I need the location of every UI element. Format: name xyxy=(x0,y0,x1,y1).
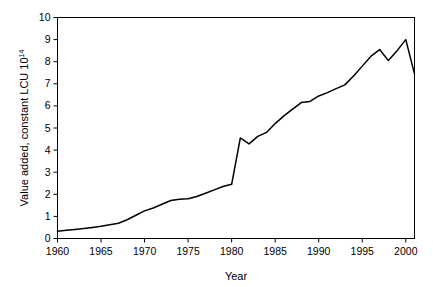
x-tick-label: 2000 xyxy=(394,245,418,257)
y-axis-title-group: Value added, constant LCU 1014 xyxy=(18,49,30,206)
y-tick-label: 8 xyxy=(45,55,51,67)
x-tick-label: 1995 xyxy=(351,245,375,257)
x-tick-label: 1970 xyxy=(133,245,157,257)
x-axis-tick-labels: 196019651970197519801985199019952000 xyxy=(46,245,418,257)
x-axis-title: Year xyxy=(225,270,248,282)
y-axis-title-text: Value added, constant LCU 10 xyxy=(18,57,30,206)
y-tick-label: 1 xyxy=(45,210,51,222)
y-tick-label: 6 xyxy=(45,99,51,111)
x-tick-label: 1980 xyxy=(220,245,244,257)
y-tick-label: 10 xyxy=(39,11,51,23)
y-tick-label: 2 xyxy=(45,188,51,200)
x-tick-label: 1975 xyxy=(176,245,200,257)
x-tick-label: 1960 xyxy=(46,245,70,257)
chart-figure: 012345678910 196019651970197519801985199… xyxy=(0,0,433,287)
x-tick-label: 1985 xyxy=(264,245,288,257)
y-tick-label: 9 xyxy=(45,33,51,45)
y-axis-title: Value added, constant LCU 1014 xyxy=(18,49,30,206)
line-chart: 012345678910 196019651970197519801985199… xyxy=(0,0,433,287)
y-tick-label: 3 xyxy=(45,166,51,178)
y-tick-label: 5 xyxy=(45,122,51,134)
y-tick-label: 7 xyxy=(45,77,51,89)
x-tick-label: 1990 xyxy=(307,245,331,257)
y-tick-label: 4 xyxy=(45,144,51,156)
x-tick-label: 1965 xyxy=(89,245,113,257)
y-tick-label: 0 xyxy=(45,232,51,244)
y-axis-title-exponent: 14 xyxy=(18,49,25,57)
